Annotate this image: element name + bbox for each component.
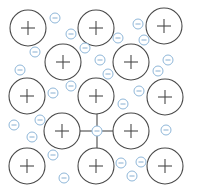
electron — [136, 157, 146, 167]
positive-ion — [147, 148, 183, 184]
electron — [116, 158, 126, 168]
positive-ion — [146, 8, 182, 44]
lattice-canvas — [0, 0, 198, 196]
positive-ion — [78, 78, 114, 114]
electron — [103, 69, 113, 79]
electron — [95, 55, 105, 65]
electron — [66, 29, 76, 39]
electron — [134, 86, 144, 96]
electron — [113, 33, 123, 43]
ions-layer — [9, 8, 183, 184]
electron — [133, 19, 143, 29]
positive-ion — [9, 148, 45, 184]
electron — [66, 81, 76, 91]
electron — [59, 173, 69, 183]
positive-ion — [78, 10, 114, 46]
electron — [9, 120, 19, 130]
electron — [92, 126, 102, 136]
electron — [153, 66, 163, 76]
electron — [163, 55, 173, 65]
electron — [15, 65, 25, 75]
electron — [35, 115, 45, 125]
positive-ion — [45, 44, 81, 80]
electron — [27, 132, 37, 142]
electron — [48, 88, 58, 98]
positive-ion — [147, 79, 183, 115]
electron — [118, 99, 128, 109]
electron — [30, 47, 40, 57]
electron — [127, 171, 137, 181]
positive-ion — [9, 78, 45, 114]
positive-ion — [10, 10, 46, 46]
electron — [48, 150, 58, 160]
electron — [139, 35, 149, 45]
electron — [161, 125, 171, 135]
positive-ion — [78, 148, 114, 184]
metallic-bonding-diagram — [0, 0, 198, 196]
electron — [80, 43, 90, 53]
positive-ion — [44, 113, 80, 149]
positive-ion — [113, 44, 149, 80]
positive-ion — [113, 113, 149, 149]
electron — [50, 13, 60, 23]
